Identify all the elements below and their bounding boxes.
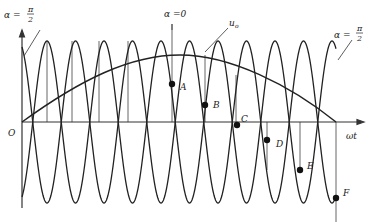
origin-label: O: [8, 128, 16, 138]
point-f-marker: [333, 195, 339, 201]
alpha-right-label: α = π 2: [334, 24, 363, 43]
cycloconverter-waveform-diagram: α = π 2 α =0 u o α = π 2 O ωt A B C D E …: [0, 0, 379, 222]
point-a-label: A: [179, 82, 187, 92]
x-axis-arrow-icon: [357, 120, 364, 125]
svg-text:o: o: [235, 22, 239, 29]
envelope-label: u o: [229, 18, 239, 29]
axes: [20, 30, 365, 208]
svg-text:2: 2: [356, 34, 362, 43]
svg-text:α =: α =: [4, 10, 20, 20]
svg-text:α =: α =: [334, 30, 350, 40]
point-b-marker: [202, 102, 208, 108]
point-a-marker: [169, 81, 175, 87]
point-e-marker: [297, 167, 303, 173]
alpha-left-label: α = π 2: [4, 5, 34, 24]
point-d-label: D: [275, 139, 283, 149]
point-b-label: B: [212, 100, 220, 110]
point-f-label: F: [342, 188, 350, 198]
alpha-zero-label: α =0: [164, 9, 186, 19]
svg-text:2: 2: [27, 15, 33, 24]
x-axis-label: ωt: [346, 131, 357, 141]
point-d-marker: [264, 137, 270, 143]
svg-text:π: π: [27, 5, 34, 14]
point-c-marker: [234, 122, 240, 128]
point-c-label: C: [241, 114, 248, 124]
point-e-label: E: [306, 161, 314, 171]
y-axis-arrow-icon: [20, 30, 25, 37]
svg-text:π: π: [356, 24, 363, 33]
